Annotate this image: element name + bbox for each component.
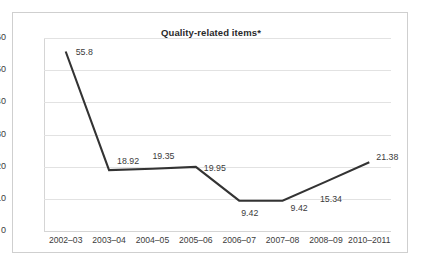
x-tick-label-5: 2007–08 [266,235,299,245]
x-axis-tick-labels: 2002–032003–042004–052005–062006–072007–… [44,235,391,251]
y-tick-label-20: 20 [0,162,6,171]
y-tick-label-40: 40 [0,97,6,106]
x-tick-label-4: 2006–07 [222,235,255,245]
chart-title: Quality-related items* [13,27,409,38]
point-label-0: 55.8 [76,48,93,57]
x-tick-label-7: 2010–2011 [348,235,390,245]
y-tick-label-30: 30 [0,130,6,139]
y-tick-label-10: 10 [0,194,6,203]
chart-container: Quality-related items* 0102030405060 55.… [0,0,421,269]
point-label-2: 19.35 [152,152,174,161]
x-tick-label-2: 2004–05 [136,235,169,245]
chart-frame: Quality-related items* 0102030405060 55.… [12,12,408,253]
y-tick-label-60: 60 [0,33,6,42]
point-label-4: 9.42 [241,209,258,218]
x-tick-label-6: 2008–09 [309,235,342,245]
x-tick-label-0: 2002–03 [49,235,82,245]
x-tick-label-3: 2005–06 [179,235,212,245]
series-polyline [66,52,370,201]
point-label-5: 9.42 [291,204,308,213]
y-tick-label-50: 50 [0,65,6,74]
plot-area: 55.818.9219.3519.959.429.4215.3421.38 [44,38,391,231]
point-label-1: 18.92 [117,157,139,166]
point-label-7: 21.38 [376,153,398,162]
gridline-0 [44,231,391,232]
y-axis-tick-labels: 0102030405060 [0,38,6,231]
point-label-3: 19.95 [204,164,226,173]
y-tick-label-0: 0 [0,226,6,235]
x-tick-label-1: 2003–04 [92,235,125,245]
point-label-6: 15.34 [320,195,342,204]
